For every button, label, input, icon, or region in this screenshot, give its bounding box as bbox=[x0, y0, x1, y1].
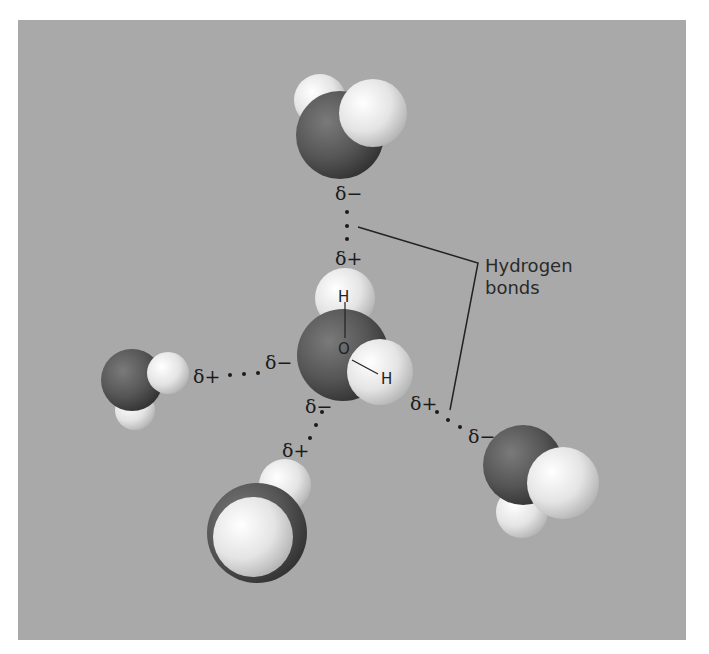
top-water-molecule bbox=[294, 74, 407, 179]
central-charge-bottom-left: δ− bbox=[305, 395, 332, 417]
central-water-molecule bbox=[297, 268, 413, 405]
hydrogen-bond-dots-left bbox=[228, 371, 260, 377]
central-charge-top: δ+ bbox=[335, 247, 362, 269]
top-molecule-charge: δ− bbox=[335, 182, 362, 204]
hydrogen-bond-dots-right bbox=[435, 410, 462, 429]
atom-label-h-right: H bbox=[381, 370, 392, 388]
atom-label-o: O bbox=[338, 340, 350, 358]
bottom-water-molecule bbox=[207, 459, 311, 583]
callout-label-line1: Hydrogen bbox=[485, 255, 573, 276]
bottom-molecule-charge: δ+ bbox=[282, 439, 309, 461]
hydrogen-atom bbox=[527, 447, 599, 519]
callout-label-line2: bonds bbox=[485, 277, 540, 298]
atom-label-h-top: H bbox=[338, 288, 349, 306]
right-water-molecule bbox=[483, 425, 599, 538]
water-hydrogen-bond-diagram: δ− δ+ Hydrogen bonds H O H δ− δ− δ+ δ+ bbox=[0, 0, 709, 654]
central-charge-left: δ− bbox=[265, 351, 292, 373]
left-molecule-charge: δ+ bbox=[193, 365, 220, 387]
central-charge-right: δ+ bbox=[410, 392, 437, 414]
hydrogen-atom-right bbox=[347, 339, 413, 405]
hydrogen-atom bbox=[339, 79, 407, 147]
hydrogen-bond-dots-top bbox=[345, 210, 349, 241]
hydrogen-atom bbox=[213, 497, 293, 577]
hydrogen-atom bbox=[147, 352, 189, 394]
left-water-molecule bbox=[101, 349, 189, 430]
